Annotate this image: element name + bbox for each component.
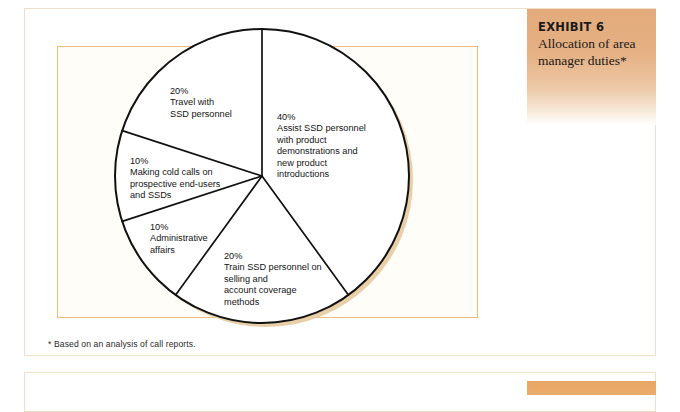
pie-label-travel-with-ssd-personnel: 20% Travel with SSD personnel — [170, 86, 290, 120]
next-exhibit-title-panel — [527, 381, 656, 395]
pie-label-train-ssd-personnel: 20% Train SSD personnel on selling and a… — [224, 251, 344, 308]
exhibit-number-label: EXHIBIT 6 — [538, 20, 658, 34]
pie-label-making-cold-calls: 10% Making cold calls on prospective end… — [130, 156, 270, 202]
exhibit-title-text: Allocation of area manager duties* — [538, 36, 658, 69]
pie-label-assist-ssd-personnel: 40% Assist SSD personnel with product de… — [277, 112, 407, 180]
exhibit-title-block: EXHIBIT 6 Allocation of area manager dut… — [538, 20, 658, 69]
exhibit-footnote: * Based on an analysis of call reports. — [48, 339, 196, 349]
